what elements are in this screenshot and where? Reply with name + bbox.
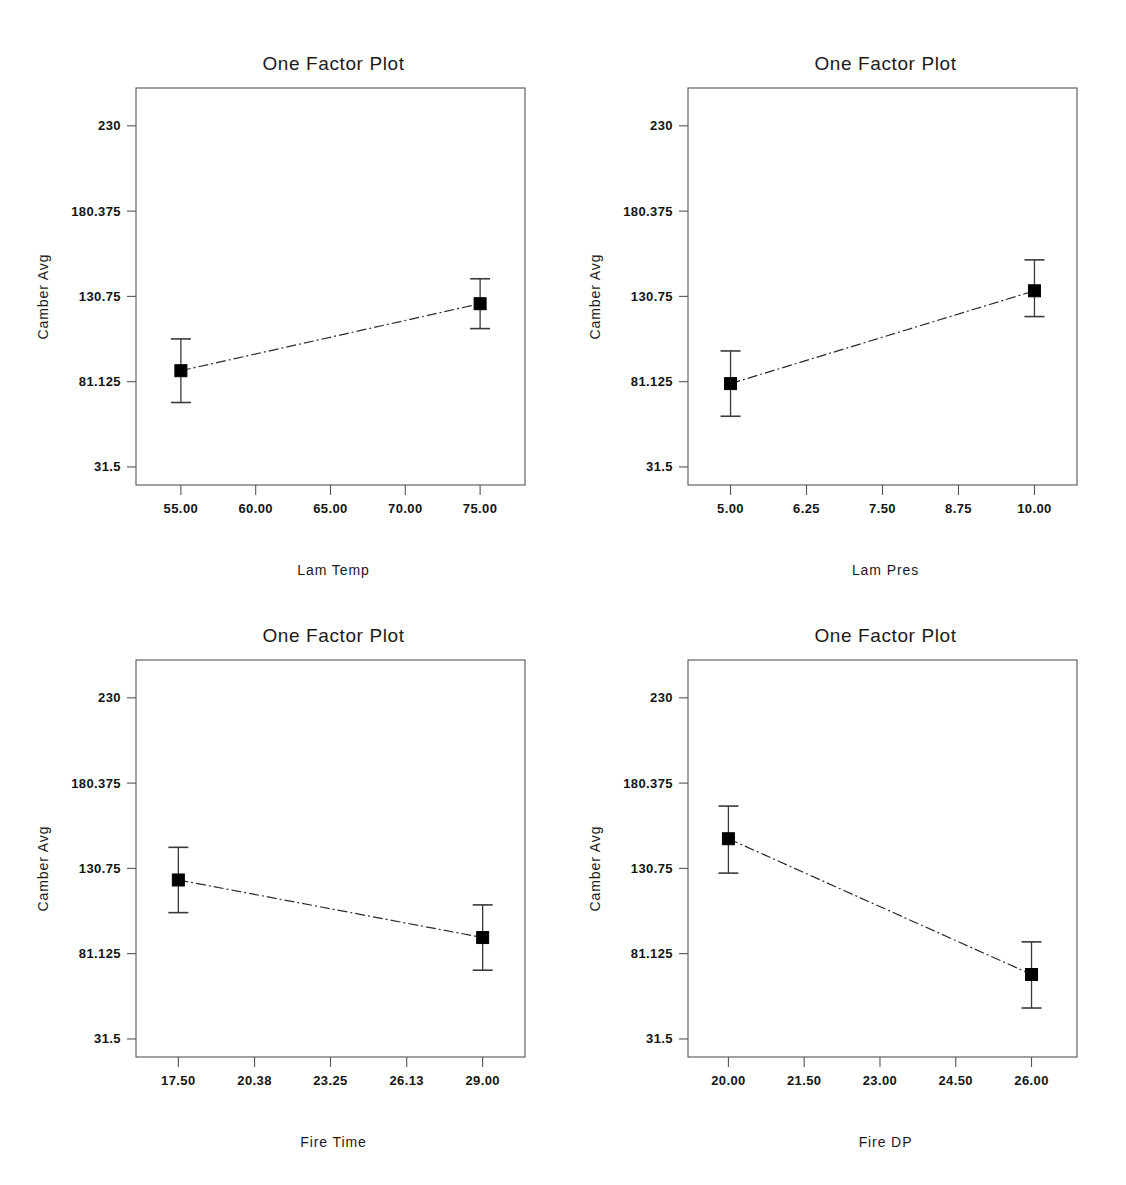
y-tick-label: 31.5 — [646, 1031, 673, 1046]
y-tick-label: 81.125 — [631, 946, 673, 961]
x-tick-label: 70.00 — [388, 501, 423, 516]
plot-title: One Factor Plot — [262, 625, 404, 646]
x-tick-label: 21.50 — [787, 1073, 822, 1088]
x-tick-label: 10.00 — [1017, 501, 1052, 516]
y-tick-label: 130.75 — [631, 289, 673, 304]
y-tick-label: 130.75 — [79, 289, 121, 304]
x-tick-label: 20.00 — [711, 1073, 746, 1088]
plot-frame — [688, 660, 1077, 1057]
y-tick-label: 81.125 — [631, 374, 673, 389]
x-tick-label: 23.00 — [863, 1073, 898, 1088]
plot-frame — [688, 88, 1077, 485]
series-line — [728, 839, 1031, 975]
plot-grid: One Factor Plot230180.375130.7581.12531.… — [0, 0, 1126, 1185]
y-axis-label: Camber Avg — [35, 254, 51, 340]
x-tick-label: 6.25 — [793, 501, 820, 516]
data-point-marker — [722, 833, 734, 845]
y-tick-label: 230 — [98, 118, 121, 133]
y-tick-label: 81.125 — [79, 946, 121, 961]
x-tick-label: 65.00 — [313, 501, 348, 516]
y-tick-label: 230 — [98, 690, 121, 705]
x-axis-label: Fire Time — [300, 1134, 366, 1150]
x-tick-label: 55.00 — [164, 501, 199, 516]
y-tick-label: 180.375 — [623, 776, 673, 791]
series-line — [178, 880, 482, 938]
x-tick-label: 26.13 — [389, 1073, 424, 1088]
plot-title: One Factor Plot — [814, 53, 956, 74]
x-tick-label: 7.50 — [869, 501, 896, 516]
y-tick-label: 230 — [650, 118, 673, 133]
chart-lam-pres: One Factor Plot230180.375130.7581.12531.… — [552, 0, 1115, 592]
y-tick-label: 81.125 — [79, 374, 121, 389]
y-tick-label: 180.375 — [71, 204, 121, 219]
panel-lam-pres: One Factor Plot230180.375130.7581.12531.… — [552, 0, 1115, 592]
chart-fire-time: One Factor Plot230180.375130.7581.12531.… — [0, 572, 563, 1164]
y-axis-label: Camber Avg — [587, 826, 603, 912]
series-line — [731, 291, 1035, 384]
y-tick-label: 31.5 — [94, 459, 121, 474]
x-tick-label: 8.75 — [945, 501, 972, 516]
data-point-marker — [477, 932, 489, 944]
y-axis-label: Camber Avg — [587, 254, 603, 340]
data-point-marker — [474, 298, 486, 310]
y-tick-label: 230 — [650, 690, 673, 705]
data-point-marker — [725, 378, 737, 390]
x-tick-label: 5.00 — [717, 501, 744, 516]
data-point-marker — [1028, 285, 1040, 297]
plot-frame — [136, 660, 525, 1057]
y-tick-label: 180.375 — [71, 776, 121, 791]
y-tick-label: 130.75 — [79, 861, 121, 876]
y-axis-label: Camber Avg — [35, 826, 51, 912]
x-axis-label: Fire DP — [859, 1134, 913, 1150]
data-point-marker — [172, 874, 184, 886]
panel-fire-dp: One Factor Plot230180.375130.7581.12531.… — [552, 572, 1115, 1164]
chart-lam-temp: One Factor Plot230180.375130.7581.12531.… — [0, 0, 563, 592]
x-tick-label: 29.00 — [465, 1073, 500, 1088]
y-tick-label: 31.5 — [646, 459, 673, 474]
x-tick-label: 20.38 — [237, 1073, 272, 1088]
x-tick-label: 60.00 — [238, 501, 273, 516]
plot-frame — [136, 88, 525, 485]
x-tick-label: 26.00 — [1014, 1073, 1049, 1088]
y-tick-label: 130.75 — [631, 861, 673, 876]
data-point-marker — [175, 365, 187, 377]
series-line — [181, 304, 480, 371]
x-tick-label: 75.00 — [463, 501, 498, 516]
data-point-marker — [1026, 969, 1038, 981]
chart-fire-dp: One Factor Plot230180.375130.7581.12531.… — [552, 572, 1115, 1164]
x-tick-label: 17.50 — [161, 1073, 196, 1088]
panel-lam-temp: One Factor Plot230180.375130.7581.12531.… — [0, 0, 563, 592]
plot-title: One Factor Plot — [262, 53, 404, 74]
plot-title: One Factor Plot — [814, 625, 956, 646]
y-tick-label: 31.5 — [94, 1031, 121, 1046]
x-tick-label: 23.25 — [313, 1073, 348, 1088]
x-tick-label: 24.50 — [938, 1073, 973, 1088]
y-tick-label: 180.375 — [623, 204, 673, 219]
panel-fire-time: One Factor Plot230180.375130.7581.12531.… — [0, 572, 563, 1164]
